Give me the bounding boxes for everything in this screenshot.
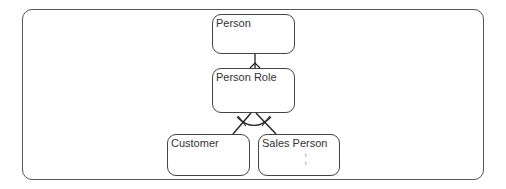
entity-label: Sales Person [262, 137, 327, 149]
entity-label: Person Role [216, 71, 277, 83]
entity-person[interactable]: Person [212, 14, 295, 54]
mark: t [305, 160, 306, 166]
entity-sales-person[interactable]: Sales Person t t [258, 134, 340, 176]
entity-customer[interactable]: Customer [167, 134, 250, 176]
entity-label: Person [216, 17, 251, 29]
entity-label: Customer [171, 137, 219, 149]
mark: t [305, 152, 306, 158]
entity-person-role[interactable]: Person Role [212, 68, 295, 113]
